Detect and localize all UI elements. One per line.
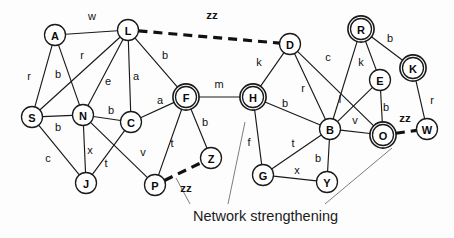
edge-N-P — [91, 122, 148, 177]
edge-label-L-C: a — [133, 70, 140, 82]
edge-label-S-J: c — [45, 152, 51, 164]
node-label-J: J — [83, 178, 89, 190]
edge-label-F-P: t — [170, 137, 173, 149]
node-L[interactable]: L — [118, 20, 139, 41]
node-label-F: F — [183, 92, 190, 104]
node-K[interactable]: K — [400, 55, 426, 81]
edge-L-N — [88, 39, 123, 105]
edge-label-N-C: b — [108, 104, 114, 116]
node-Z[interactable]: Z — [201, 148, 222, 169]
node-label-A: A — [51, 30, 59, 42]
nodes-layer: ALSNCJFZPHDGYBREOKW — [22, 16, 438, 196]
edge-label-E-O: b — [383, 101, 389, 113]
edge-H-G — [255, 110, 262, 165]
edge-label-L-S: r — [80, 49, 84, 61]
edge-label-B-Y: b — [315, 152, 321, 164]
edge-L-F — [135, 38, 178, 87]
edge-label-A-N: b — [55, 68, 61, 80]
node-label-G: G — [259, 170, 268, 182]
node-Y[interactable]: Y — [317, 172, 338, 193]
edge-F-Z — [191, 109, 207, 148]
edge-B-Y — [328, 139, 330, 171]
node-A[interactable]: A — [45, 25, 66, 46]
edge-H-B — [265, 102, 320, 125]
node-label-C: C — [127, 117, 135, 129]
node-O[interactable]: O — [370, 122, 396, 148]
node-B[interactable]: B — [320, 119, 341, 140]
edge-label-E-B: l — [339, 93, 341, 105]
node-D[interactable]: D — [280, 34, 301, 55]
edge-label-L-D: zz — [206, 9, 218, 21]
edge-label-A-S: r — [27, 70, 31, 82]
edge-label-B-G: t — [291, 137, 294, 149]
edge-H-D — [260, 53, 284, 87]
node-label-N: N — [79, 110, 87, 122]
edge-label-P-Z: zz — [180, 182, 192, 194]
node-label-B: B — [326, 124, 334, 136]
edge-R-E — [366, 41, 377, 70]
edge-A-S — [35, 45, 52, 107]
node-G[interactable]: G — [253, 165, 274, 186]
edge-G-Y — [273, 176, 316, 181]
edge-label-N-J: x — [87, 144, 93, 156]
edge-labels-layer: wrbreabzzbcbxvtabtmzzkbfrckblbvtbxrzz — [27, 9, 434, 194]
edge-B-O — [340, 130, 370, 133]
edge-label-A-L: w — [87, 10, 96, 22]
node-P[interactable]: P — [145, 175, 166, 196]
node-label-P: P — [151, 180, 158, 192]
edge-label-K-W: r — [430, 94, 434, 106]
network-strengthening-figure: ALSNCJFZPHDGYBREOKW wrbreabzzbcbxvtabtmz… — [0, 0, 454, 238]
network-graph: ALSNCJFZPHDGYBREOKW wrbreabzzbcbxvtabtmz… — [0, 0, 454, 238]
edge-label-D-O: c — [325, 51, 331, 63]
node-label-H: H — [249, 92, 257, 104]
edge-label-H-D: k — [256, 56, 262, 68]
dashed-edge-P-Z — [164, 163, 201, 181]
node-label-K: K — [409, 63, 417, 75]
edge-label-O-W: zz — [399, 112, 411, 124]
node-label-L: L — [125, 25, 132, 37]
edge-N-C — [93, 117, 120, 121]
dashed-edge-L-D — [138, 31, 279, 43]
edge-R-B — [333, 41, 357, 119]
edges-layer — [35, 31, 425, 181]
node-label-S: S — [28, 112, 35, 124]
edge-label-B-O: v — [352, 114, 358, 126]
edge-label-R-K: b — [387, 32, 393, 44]
node-S[interactable]: S — [22, 107, 43, 128]
edge-K-W — [416, 81, 425, 119]
node-label-W: W — [422, 124, 433, 136]
edge-label-F-Z: b — [202, 116, 208, 128]
edge-L-C — [128, 40, 130, 111]
node-W[interactable]: W — [417, 119, 438, 140]
edge-label-H-G: f — [247, 136, 251, 148]
edge-label-C-J: t — [104, 157, 107, 169]
edge-label-L-N: e — [105, 75, 111, 87]
edge-label-F-H: m — [214, 78, 223, 90]
node-label-E: E — [376, 75, 383, 87]
node-H[interactable]: H — [240, 84, 266, 110]
node-N[interactable]: N — [73, 105, 94, 126]
figure-caption: Network strengthening — [193, 208, 338, 224]
edge-label-S-N: b — [55, 121, 61, 133]
edge-label-G-Y: x — [294, 164, 300, 176]
edge-label-C-F: a — [157, 94, 164, 106]
edge-C-J — [92, 130, 125, 174]
edge-N-J — [83, 125, 85, 172]
node-label-Y: Y — [323, 177, 331, 189]
node-E[interactable]: E — [370, 70, 391, 91]
node-J[interactable]: J — [76, 173, 97, 194]
node-F[interactable]: F — [173, 84, 199, 110]
node-R[interactable]: R — [348, 16, 374, 42]
node-label-D: D — [286, 39, 294, 51]
node-label-R: R — [357, 24, 365, 36]
edge-A-N — [58, 45, 79, 105]
node-label-O: O — [379, 130, 388, 142]
edge-A-L — [65, 31, 117, 35]
edge-S-N — [42, 115, 72, 116]
dashed-edge-O-W — [396, 130, 417, 133]
node-label-Z: Z — [208, 153, 215, 165]
edge-label-N-P: v — [140, 146, 146, 158]
node-C[interactable]: C — [121, 112, 142, 133]
caption-pointer-2 — [228, 122, 245, 204]
edge-label-H-B: b — [282, 97, 288, 109]
